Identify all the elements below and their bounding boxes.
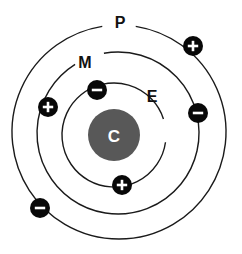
proton-inner-bottom (112, 175, 132, 195)
shell-label-middle: M (78, 54, 91, 71)
electron-inner-top (87, 80, 107, 100)
shell-label-inner: E (147, 88, 158, 105)
electron-outer-bottom-left (30, 198, 50, 218)
atom-diagram-canvas: C EMP (0, 0, 242, 254)
proton-middle-left (38, 97, 58, 117)
atom-diagram: C EMP (0, 0, 242, 254)
proton-outer-top-right (183, 36, 203, 56)
shell-label-outer: P (115, 14, 126, 31)
nucleus-label: C (108, 127, 120, 146)
electron-middle-right (188, 103, 208, 123)
nucleus-group: C (88, 109, 140, 161)
